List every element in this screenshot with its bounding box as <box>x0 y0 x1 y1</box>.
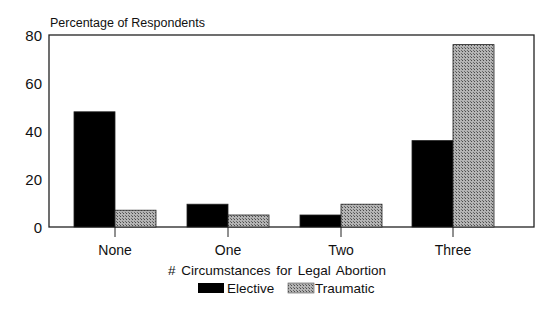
legend-swatch-traumatic <box>288 283 314 293</box>
bars <box>74 45 494 227</box>
x-axis-label: # Circumstances for Legal Abortion <box>168 263 386 278</box>
legend-label-elective: Elective <box>227 281 274 296</box>
x-tick-label: One <box>215 242 242 258</box>
x-axis-ticks: NoneOneTwoThree <box>98 227 471 258</box>
bar-elective-none <box>74 112 115 227</box>
bar-traumatic-two <box>341 204 382 227</box>
legend-label-traumatic: Traumatic <box>315 281 375 296</box>
x-tick-label: Three <box>435 242 472 258</box>
legend: Elective Traumatic <box>198 281 375 296</box>
x-tick-label: None <box>98 242 132 258</box>
bar-elective-three <box>412 141 453 227</box>
y-axis-ticks: 020406080 <box>25 27 42 236</box>
y-tick-label: 40 <box>25 123 42 140</box>
bar-traumatic-one <box>228 215 269 227</box>
x-tick-label: Two <box>328 242 354 258</box>
y-tick-label: 60 <box>25 75 42 92</box>
y-tick-label: 20 <box>25 171 42 188</box>
bar-traumatic-none <box>115 210 156 227</box>
y-tick-label: 0 <box>34 219 42 236</box>
y-tick-label: 80 <box>25 27 42 44</box>
y-axis-label: Percentage of Respondents <box>50 16 205 30</box>
legend-swatch-elective <box>198 283 224 293</box>
bar-elective-one <box>187 204 228 227</box>
bar-traumatic-three <box>453 45 494 227</box>
bar-chart: Percentage of Respondents 020406080 None… <box>0 0 538 312</box>
bar-elective-two <box>300 215 341 227</box>
